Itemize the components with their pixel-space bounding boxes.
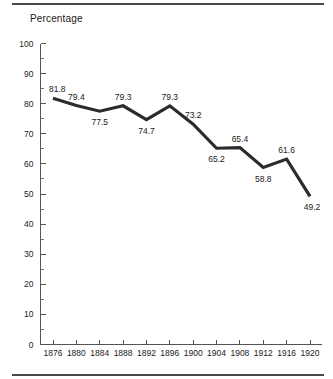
x-tick-label: 1880 bbox=[67, 348, 86, 358]
y-tick-label: 100 bbox=[19, 39, 33, 49]
data-point-label: 49.2 bbox=[304, 202, 321, 212]
y-tick-label: 30 bbox=[24, 249, 34, 259]
y-tick-label: 70 bbox=[24, 129, 34, 139]
data-point-label: 79.3 bbox=[162, 92, 179, 102]
y-tick-label: 60 bbox=[24, 159, 34, 169]
x-tick-label: 1908 bbox=[230, 348, 249, 358]
x-axis: 1876188018841888189218961900190419081912… bbox=[41, 340, 322, 358]
data-point-label: 61.6 bbox=[278, 145, 295, 155]
data-point-label: 65.2 bbox=[208, 154, 225, 164]
y-tick-label: 10 bbox=[24, 309, 34, 319]
figure-container: Percentage 0102030405060708090100 187618… bbox=[0, 0, 333, 379]
x-tick-label: 1896 bbox=[160, 348, 179, 358]
data-point-labels: 81.879.477.579.374.779.373.265.265.458.8… bbox=[49, 84, 321, 212]
y-tick-label: 50 bbox=[24, 189, 34, 199]
data-point-label: 65.4 bbox=[232, 134, 249, 144]
data-point-label: 77.5 bbox=[91, 117, 108, 127]
y-axis: 0102030405060708090100 bbox=[19, 39, 45, 350]
y-tick-label: 80 bbox=[24, 99, 34, 109]
y-tick-label: 20 bbox=[24, 279, 34, 289]
x-tick-label: 1884 bbox=[90, 348, 109, 358]
data-point-label: 79.4 bbox=[68, 92, 85, 102]
y-tick-label: 90 bbox=[24, 69, 34, 79]
y-tick-label: 0 bbox=[29, 340, 34, 350]
x-tick-label: 1916 bbox=[277, 348, 296, 358]
data-point-label: 74.7 bbox=[138, 126, 155, 136]
data-point-label: 73.2 bbox=[185, 110, 202, 120]
data-point-label: 58.8 bbox=[255, 174, 272, 184]
x-tick-label: 1900 bbox=[184, 348, 203, 358]
x-tick-label: 1876 bbox=[44, 348, 63, 358]
data-point-label: 79.3 bbox=[115, 92, 132, 102]
bottom-divider-rule bbox=[12, 374, 324, 376]
x-tick-label: 1920 bbox=[301, 348, 320, 358]
x-tick-label: 1904 bbox=[207, 348, 226, 358]
y-tick-label: 40 bbox=[24, 219, 34, 229]
x-tick-label: 1892 bbox=[137, 348, 156, 358]
data-point-label: 81.8 bbox=[49, 84, 66, 94]
line-chart: 0102030405060708090100 18761880188418881… bbox=[0, 0, 333, 379]
x-tick-label: 1888 bbox=[114, 348, 133, 358]
x-tick-label: 1912 bbox=[254, 348, 273, 358]
